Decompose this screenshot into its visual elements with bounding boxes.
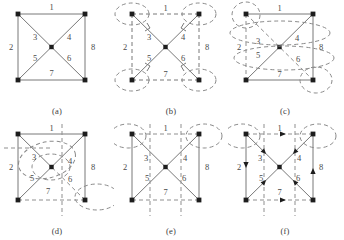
vertex-bottom-left xyxy=(16,198,21,203)
edge-6-line xyxy=(52,47,86,80)
figure-panel-grid: 1 2 3 4 5 6 7 8 (a) xyxy=(0,0,344,240)
edge-label-2: 2 xyxy=(9,42,13,52)
vertex-center xyxy=(163,45,167,49)
ellipse-bottom-right xyxy=(75,184,114,210)
panel-e: 1 2 3 4 5 6 7 8 (e) xyxy=(114,120,228,240)
edge-label-2: 2 xyxy=(237,42,241,52)
vertex-bottom-right xyxy=(311,198,316,203)
edge-label-4: 4 xyxy=(183,153,188,163)
edge-label-5: 5 xyxy=(259,173,263,183)
edge-label-1: 1 xyxy=(163,3,167,13)
edge-label-4: 4 xyxy=(297,153,302,163)
edge-label-6: 6 xyxy=(181,53,185,63)
edge-label-1: 1 xyxy=(49,2,53,12)
panel-e-caption: (e) xyxy=(114,226,228,236)
edge-label-2: 2 xyxy=(9,162,13,172)
edge-3-line xyxy=(18,134,52,167)
edge-label-1: 1 xyxy=(277,123,281,133)
panel-f-caption: (f) xyxy=(228,226,342,236)
arrow-edge-2 xyxy=(243,162,248,168)
edge-label-2: 2 xyxy=(123,42,127,52)
edge-label-8: 8 xyxy=(319,42,323,52)
vertex-top-left xyxy=(244,12,249,17)
vertex-top-right xyxy=(83,12,88,17)
edge-5-line xyxy=(132,167,166,200)
vertex-center xyxy=(49,45,53,49)
edge-label-4: 4 xyxy=(181,32,186,42)
vertex-bottom-right xyxy=(83,198,88,203)
vertex-top-right xyxy=(197,132,202,137)
edge-6-line xyxy=(166,167,200,200)
vertex-top-right xyxy=(83,132,88,137)
edge-label-7: 7 xyxy=(46,186,50,196)
vertex-center xyxy=(49,165,53,169)
vertex-bottom-right xyxy=(311,78,316,83)
vertex-center xyxy=(277,165,281,169)
edge-label-1: 1 xyxy=(277,3,281,13)
vertex-bottom-left xyxy=(244,198,249,203)
vertex-top-right xyxy=(197,12,202,17)
ellipse-top-right xyxy=(300,124,336,148)
vertex-top-left xyxy=(130,12,135,17)
edge-3-line xyxy=(18,14,52,47)
edge-label-7: 7 xyxy=(163,69,167,79)
panel-b-graph: 1 2 3 4 5 6 7 8 xyxy=(114,0,228,104)
panel-a-caption: (a) xyxy=(0,106,114,116)
edge-label-3: 3 xyxy=(256,36,260,46)
panel-a: 1 2 3 4 5 6 7 8 (a) xyxy=(0,0,114,120)
panel-c: 1 2 3 4 5 6 7 8 (c) xyxy=(228,0,342,120)
edge-label-1: 1 xyxy=(49,123,53,133)
panel-c-graph: 1 2 3 4 5 6 7 8 xyxy=(228,0,342,104)
vertex-bottom-left xyxy=(130,78,135,83)
edge-label-6: 6 xyxy=(182,173,186,183)
edge-label-7: 7 xyxy=(163,187,167,197)
vertex-bottom-right xyxy=(197,198,202,203)
edge-label-2: 2 xyxy=(123,162,127,172)
ellipse-upper-band xyxy=(230,21,330,45)
edge-label-1: 1 xyxy=(163,123,167,133)
edge-4-line xyxy=(52,14,86,47)
panel-c-caption: (c) xyxy=(228,106,342,116)
edge-label-8: 8 xyxy=(205,42,209,52)
edge-3-line xyxy=(132,134,166,167)
panel-b: 1 2 3 4 5 6 7 8 (b) xyxy=(114,0,228,120)
vertex-top-left xyxy=(16,132,21,137)
vertex-top-right xyxy=(311,12,316,17)
vertex-bottom-left xyxy=(16,78,21,83)
edge-label-6: 6 xyxy=(296,173,300,183)
vertex-bottom-left xyxy=(130,198,135,203)
edge-label-4: 4 xyxy=(295,33,300,43)
edge-label-5: 5 xyxy=(145,173,149,183)
panel-e-graph: 1 2 3 4 5 6 7 8 xyxy=(114,120,228,224)
panel-b-caption: (b) xyxy=(114,106,228,116)
edge-label-8: 8 xyxy=(91,162,95,172)
edge-label-3: 3 xyxy=(32,152,36,162)
edge-label-3: 3 xyxy=(144,153,148,163)
panel-d: 1 2 3 4 5 6 7 8 (d) xyxy=(0,120,114,240)
arrow-edge-7 xyxy=(280,197,286,202)
edge-label-6: 6 xyxy=(296,54,300,64)
ellipse-top-right xyxy=(186,124,222,148)
panel-f: 1 2 3 4 5 6 7 8 (f) xyxy=(228,120,342,240)
vertex-center xyxy=(163,165,167,169)
panel-f-graph: 1 2 3 4 5 6 7 8 xyxy=(228,120,342,224)
edge-label-4: 4 xyxy=(68,156,73,166)
edge-label-2: 2 xyxy=(237,162,241,172)
edge-5-line xyxy=(18,47,52,80)
edge-label-5: 5 xyxy=(256,50,260,60)
panel-d-caption: (d) xyxy=(0,226,114,236)
arrow-edge-8 xyxy=(310,168,315,174)
panel-d-graph: 1 2 3 4 5 6 7 8 xyxy=(0,120,114,224)
edge-label-3: 3 xyxy=(147,32,151,42)
edge-label-7: 7 xyxy=(49,68,53,78)
vertex-top-left xyxy=(130,132,135,137)
vertex-bottom-right xyxy=(83,78,88,83)
edge-label-5: 5 xyxy=(33,53,37,63)
edge-label-3: 3 xyxy=(33,32,37,42)
edge-label-8: 8 xyxy=(319,162,323,172)
vertex-bottom-right xyxy=(197,78,202,83)
edge-label-3: 3 xyxy=(258,153,262,163)
edge-label-8: 8 xyxy=(91,42,95,52)
vertex-top-left xyxy=(244,132,249,137)
edge-label-6: 6 xyxy=(68,174,72,184)
